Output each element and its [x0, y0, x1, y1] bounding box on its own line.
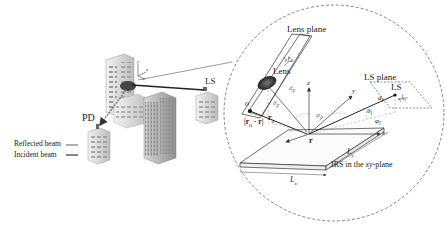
legend-reflected-label: Reflected beam [14, 140, 61, 148]
ls-building [196, 87, 218, 124]
ls-label-scene: LS [205, 77, 216, 86]
dp-label: dp [289, 85, 295, 94]
small-axis-y: y [137, 59, 139, 64]
axis-y-label: y [352, 88, 355, 95]
theta-p-label: θp [273, 100, 279, 109]
irs-plane-label: IRS in the xy-plane [331, 161, 393, 169]
ls-plane-label: LS plane [364, 73, 396, 82]
axis-z-label: z [307, 80, 310, 87]
r-o-minus-r-label: |ro - r| [244, 118, 263, 128]
axis-x-label: x [382, 130, 385, 137]
pd-label: PD [82, 113, 95, 123]
irs-panel [120, 81, 136, 91]
theta-l-label: θl [367, 108, 372, 117]
dl-label: dl [378, 95, 383, 104]
small-axis-x: x [146, 67, 148, 72]
incident-beam [132, 85, 204, 90]
lx-dimension [240, 172, 326, 175]
lens-axes-label: zp xp [283, 55, 293, 62]
ls-axes-label: zl xl [398, 96, 406, 103]
pd-receiver [96, 124, 99, 129]
legend-incident-label: Incident beam [14, 151, 57, 159]
zoom-connector [138, 62, 232, 80]
ls-label-inset: LS [391, 83, 402, 92]
phi-p-label: φp [316, 112, 323, 121]
lens-plane-label: Lens plane [287, 25, 326, 34]
irs-vlc-diagram: PD LS Reflected beam Incident beam y x z… [0, 0, 447, 227]
inset-detail [224, 5, 444, 221]
tall-tower [144, 92, 176, 164]
lx-label: Lx [290, 176, 297, 186]
origin-o-label: o [245, 100, 249, 108]
r-vector-label: r [309, 137, 313, 145]
ly-label: Ly [347, 148, 354, 158]
diagram-svg [0, 0, 447, 227]
lens-label: Lens [273, 67, 291, 76]
small-axis-z: z [143, 76, 145, 81]
ls-point [393, 93, 396, 96]
phi-l-label: φl [375, 118, 381, 127]
pd-building [88, 124, 110, 164]
inset-circle [224, 5, 444, 221]
lens [255, 73, 278, 92]
r-o-label: ro [268, 114, 274, 124]
city-scene [88, 54, 232, 164]
